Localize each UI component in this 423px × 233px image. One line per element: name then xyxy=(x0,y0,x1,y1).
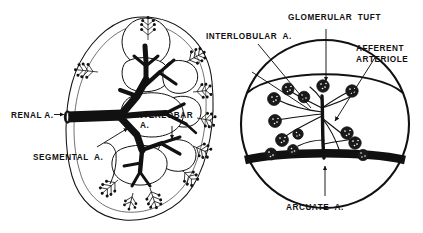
glomerulus xyxy=(269,115,282,128)
glomerulus xyxy=(317,80,329,92)
label-interlobar-artery-line1: INTERLOBAR xyxy=(134,111,193,120)
label-arcuate-artery: ARCUATE A. xyxy=(286,203,344,212)
glomerulus xyxy=(293,129,303,139)
glomerulus xyxy=(341,127,353,139)
label-interlobular-artery: INTERLOBULAR A. xyxy=(206,32,292,41)
label-renal-artery: RENAL A. xyxy=(11,111,54,120)
glomerulus xyxy=(298,91,310,103)
renal-circulation-diagram: RENAL A. SEGMENTAL A. INTERLOBAR A. INTE… xyxy=(0,0,423,233)
glomerulus xyxy=(288,145,299,156)
label-afferent-arteriole-line1: AFFERENT xyxy=(356,44,404,53)
label-interlobar-artery-line2: A. xyxy=(140,121,149,130)
interlobular-artery xyxy=(322,96,324,158)
glomerulus xyxy=(349,137,361,149)
glomerulus xyxy=(357,149,368,160)
label-segmental-artery: SEGMENTAL A. xyxy=(33,153,103,162)
glomerulus xyxy=(276,134,289,147)
label-afferent-arteriole-line2: ARTERIOLE xyxy=(356,55,408,64)
label-glomerular-tuft: GLOMERULAR TUFT xyxy=(288,13,381,22)
glomerulus xyxy=(268,93,281,106)
glomerulus xyxy=(265,148,277,160)
